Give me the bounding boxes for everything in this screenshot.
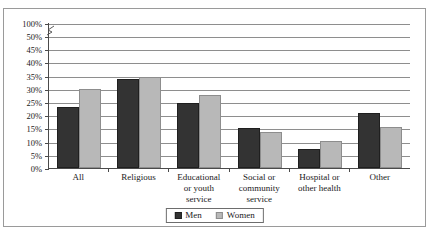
- chart-frame: 0%5%10%15%20%25%30%35%40%45%50%100% AllR…: [3, 8, 426, 227]
- bar-group: [169, 23, 229, 168]
- chart-figure: 0%5%10%15%20%25%30%35%40%45%50%100% AllR…: [0, 0, 429, 231]
- legend-item-men: Men: [174, 210, 202, 220]
- y-axis-tick-label: 100%: [22, 20, 42, 29]
- y-axis-tick-label: 35%: [26, 72, 42, 81]
- cropped-title-remnant: [0, 0, 429, 7]
- x-axis-category-label: Social orcommunityservice: [229, 172, 289, 206]
- bar-women: [380, 127, 402, 168]
- bar-men: [238, 128, 260, 168]
- y-axis-tick-label: 25%: [26, 99, 42, 108]
- legend-item-women: Women: [216, 210, 255, 220]
- bar-men: [117, 79, 139, 168]
- chart-legend: Men Women: [165, 208, 263, 223]
- plot-area: [48, 23, 410, 169]
- y-axis-tick-label: 10%: [26, 138, 42, 147]
- bar-women: [199, 95, 221, 168]
- bar-group: [230, 23, 290, 168]
- y-axis-tick-label: 15%: [26, 125, 42, 134]
- y-axis-tick: [45, 169, 49, 170]
- legend-label-men: Men: [185, 210, 202, 220]
- y-axis-tick-label: 50%: [26, 33, 42, 42]
- y-axis-tick-label: 5%: [31, 151, 42, 160]
- y-axis-tick-label: 20%: [26, 112, 42, 121]
- bar-group: [109, 23, 169, 168]
- bar-groups: [49, 23, 410, 168]
- bar-women: [320, 141, 342, 168]
- bar-men: [57, 107, 79, 169]
- x-axis-labels: AllReligiousEducationalor youthserviceSo…: [48, 172, 410, 206]
- bar-women: [139, 77, 161, 168]
- x-axis-category-label: Hospital orother health: [289, 172, 349, 206]
- x-axis-category-label: Religious: [108, 172, 168, 206]
- x-axis-category-label: Educationalor youthservice: [169, 172, 229, 206]
- y-axis-tick-label: 30%: [26, 85, 42, 94]
- bar-group: [290, 23, 350, 168]
- legend-swatch-men-icon: [174, 212, 181, 219]
- legend-swatch-women-icon: [216, 212, 223, 219]
- x-axis-category-label: All: [48, 172, 108, 206]
- bar-men: [177, 103, 199, 168]
- y-axis-tick-label: 40%: [26, 59, 42, 68]
- x-axis-category-label: Other: [350, 172, 410, 206]
- legend-label-women: Women: [227, 210, 255, 220]
- y-axis-labels: 0%5%10%15%20%25%30%35%40%45%50%100%: [4, 19, 44, 175]
- y-axis-tick-label: 0%: [31, 165, 42, 174]
- bar-men: [358, 113, 380, 168]
- bar-group: [350, 23, 410, 168]
- bar-women: [260, 132, 282, 168]
- bar-women: [79, 89, 101, 168]
- y-axis-tick-label: 45%: [26, 46, 42, 55]
- bar-men: [298, 149, 320, 168]
- bar-group: [49, 23, 109, 168]
